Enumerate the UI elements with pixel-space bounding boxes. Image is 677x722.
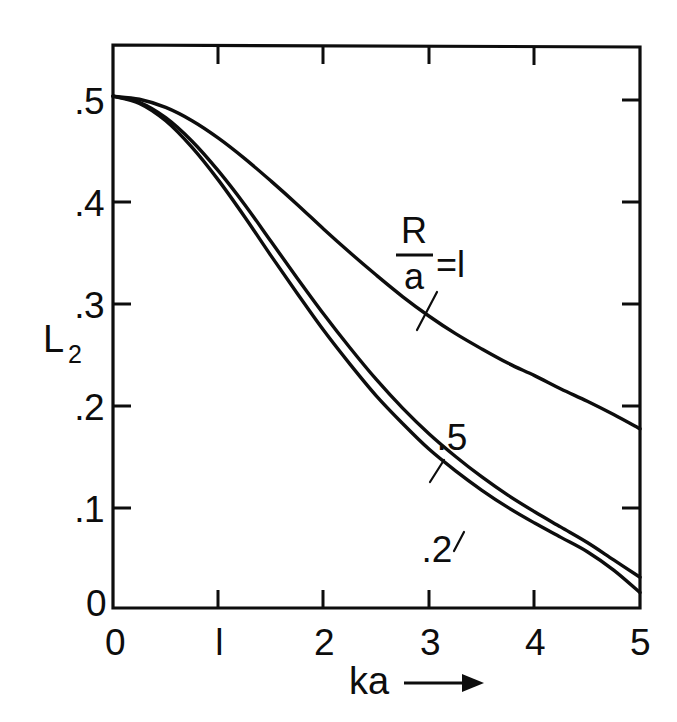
- plot-frame: [113, 45, 640, 608]
- curve-r-a-02: [113, 96, 640, 592]
- x-axis-title-text: ka: [349, 660, 390, 702]
- x-axis-title: ka: [349, 660, 484, 702]
- y-axis-ticks-right: [622, 100, 640, 508]
- y-tick-label-01: .1: [74, 489, 104, 530]
- curve-r-a-05: [113, 96, 640, 577]
- y-tick-label-00: 0: [86, 583, 106, 624]
- arrow-right-icon: [462, 674, 484, 692]
- chart-curves: [113, 96, 640, 592]
- fraction-numerator-R: R: [401, 210, 427, 251]
- annotation-r-a-1: R a =l: [396, 210, 465, 330]
- y-axis-title-text: L: [43, 318, 64, 360]
- y-axis-title-subscript: 2: [68, 340, 82, 368]
- x-tick-label-5: 5: [630, 622, 650, 663]
- fraction-equals-one: =l: [436, 244, 465, 285]
- curve-label-05: .5: [437, 417, 468, 458]
- x-tick-label-3: 3: [420, 622, 440, 663]
- annotation-r-a-02: .2: [422, 529, 464, 570]
- y-tick-label-02: .2: [74, 387, 104, 428]
- curve-label-02: .2: [422, 529, 453, 570]
- y-axis-ticks-left: [113, 202, 131, 508]
- x-tick-label-0: 0: [105, 622, 125, 663]
- fraction-denominator-a: a: [404, 256, 425, 297]
- x-axis-tick-labels: 0 l 2 3 4 5: [105, 622, 650, 663]
- leader-line-05: [430, 460, 444, 482]
- figure-container: .5 .4 .3 .2 .1 0 0 l 2 3 4 5 L 2 ka: [0, 0, 677, 722]
- x-axis-ticks-top: [218, 46, 534, 65]
- x-tick-label-1: l: [215, 622, 223, 663]
- chart-svg: .5 .4 .3 .2 .1 0 0 l 2 3 4 5 L 2 ka: [0, 0, 677, 722]
- y-tick-label-05: .5: [74, 81, 104, 122]
- x-axis-ticks-bottom: [218, 590, 534, 608]
- leader-line-02: [454, 532, 464, 551]
- y-tick-label-03: .3: [74, 285, 104, 326]
- x-tick-label-2: 2: [314, 622, 334, 663]
- y-tick-label-04: .4: [74, 183, 104, 224]
- plot-frame-border: [113, 45, 640, 608]
- annotation-r-a-05: .5: [430, 417, 467, 482]
- x-tick-label-4: 4: [525, 622, 545, 663]
